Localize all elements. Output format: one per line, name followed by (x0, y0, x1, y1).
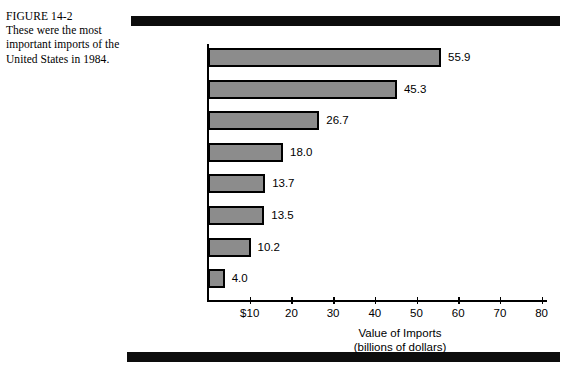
x-axis-tick-label: 60 (438, 307, 478, 320)
x-axis-tick (542, 297, 544, 304)
x-axis-tick-label: 70 (480, 307, 520, 320)
x-axis-tick (375, 297, 377, 304)
bar-value-label: 10.2 (258, 240, 280, 254)
x-axis-tick-label: 50 (397, 307, 437, 320)
x-axis-tick (500, 297, 502, 304)
bar-value-label: 18.0 (290, 145, 312, 159)
bar (208, 269, 225, 288)
x-axis-line (207, 300, 547, 302)
x-axis-title-line1: Value of Imports (300, 327, 500, 341)
x-axis-tick-label: 40 (355, 307, 395, 320)
x-axis-tick (291, 297, 293, 304)
x-axis-tick-label: 30 (313, 307, 353, 320)
bar-value-label: 55.9 (448, 50, 470, 64)
bar-chart: Petroleum55.9Automobiles and Parts45.3El… (0, 0, 573, 371)
x-axis-title: Value of Imports (billions of dollars) (300, 327, 500, 354)
x-axis-tick-label: $10 (230, 307, 270, 320)
x-axis-tick (417, 297, 419, 304)
bar-value-label: 26.7 (326, 113, 348, 127)
bar (208, 206, 264, 225)
x-axis-title-line2: (billions of dollars) (300, 341, 500, 355)
bar (208, 238, 251, 257)
x-axis-tick-label: 20 (271, 307, 311, 320)
bar (208, 80, 397, 99)
bar-value-label: 13.7 (272, 176, 294, 190)
bar (208, 174, 265, 193)
bar (208, 48, 441, 67)
bar (208, 111, 319, 130)
bar (208, 143, 283, 162)
x-axis-tick-label: 80 (522, 307, 562, 320)
x-axis-tick (333, 297, 335, 304)
bar-value-label: 45.3 (404, 82, 426, 96)
x-axis-tick (250, 297, 252, 304)
x-axis-tick (458, 297, 460, 304)
bar-value-label: 13.5 (271, 208, 293, 222)
bar-value-label: 4.0 (232, 271, 248, 285)
